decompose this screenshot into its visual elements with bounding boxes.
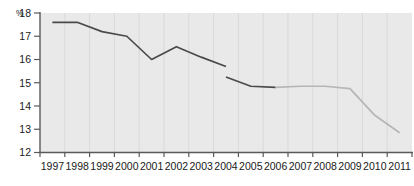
y-tick-label: 17 <box>19 30 31 42</box>
x-tick-label: 2003 <box>190 160 214 172</box>
plot-background <box>40 13 412 152</box>
x-tick-label: 2002 <box>165 160 189 172</box>
x-tick-label: 2008 <box>314 160 338 172</box>
x-tick-label: 1997 <box>41 160 65 172</box>
x-tick-label: 2010 <box>363 160 387 172</box>
x-tick-label: 2006 <box>264 160 288 172</box>
x-tick-label: 2011 <box>388 160 411 172</box>
x-tick-label: 2007 <box>289 160 313 172</box>
x-axis-tick-labels: 1997199819992000200120022003200420052006… <box>41 160 411 172</box>
x-tick-label: 2005 <box>239 160 263 172</box>
y-tick-label: 14 <box>19 100 31 112</box>
y-tick-label: 16 <box>19 53 31 65</box>
y-tick-label: 13 <box>19 123 31 135</box>
line-chart: 12131415161718 1997199819992000200120022… <box>0 0 414 186</box>
x-tick-label: 2004 <box>214 160 238 172</box>
y-axis-tick-labels: 12131415161718 <box>19 7 31 159</box>
x-tick-label: 1998 <box>66 160 90 172</box>
y-tick-label: 15 <box>19 77 31 89</box>
x-tick-label: 2001 <box>140 160 164 172</box>
x-tick-label: 1999 <box>90 160 114 172</box>
x-tick-label: 2000 <box>115 160 139 172</box>
y-axis-unit-label: % <box>16 8 24 18</box>
y-axis-ticks <box>34 13 40 153</box>
x-tick-label: 2009 <box>338 160 362 172</box>
chart-container: 12131415161718 1997199819992000200120022… <box>0 0 414 186</box>
y-tick-label: 12 <box>19 146 31 158</box>
